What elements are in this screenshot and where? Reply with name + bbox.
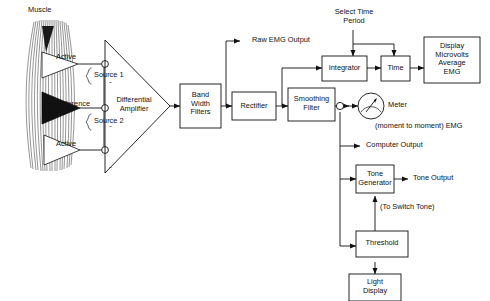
tone-generator-label: Tone Generator [356, 170, 394, 187]
to-switch-tone-label: (To Switch Tone) [380, 203, 435, 212]
computer-output-label: Computer Output [366, 141, 423, 150]
muscle-label: Muscle [28, 6, 51, 15]
diagram-svg [0, 0, 490, 301]
threshold-label: Threshold [356, 239, 408, 248]
amp-input-sign-1: - [109, 78, 112, 87]
meter-sub-label: (moment to moment) EMG [375, 122, 462, 131]
electrode-label-active-bottom: Active [56, 140, 76, 149]
time-label: Time [381, 64, 410, 73]
smoothing-filter-label: Smoothing Filter [288, 95, 335, 112]
band-width-filters-label: Band Width Filters [180, 91, 221, 117]
electrode-label-active-top: Active [56, 53, 76, 62]
amp-input-sign-2: - [109, 122, 112, 131]
select-time-period-label: Select Time Period [323, 8, 385, 25]
tone-output-label: Tone Output [413, 174, 453, 183]
differential-amplifier-label: Differential Amplifier [104, 96, 164, 113]
light-display-label: Light Display [349, 278, 401, 295]
electrode-label-reference: Reference [56, 100, 90, 109]
meter-label: Meter [388, 101, 407, 110]
signal-junction-node [336, 102, 343, 109]
rectifier-label: Rectifier [232, 102, 276, 111]
display-label: Display Microvolts Average EMG [424, 42, 480, 76]
integrator-label: Integrator [322, 64, 367, 73]
amp-input-sign-3: - [109, 163, 112, 172]
diagram-canvas: Muscle Active Reference Active Source 1 … [0, 0, 490, 301]
meter-gauge [358, 93, 384, 119]
raw-emg-output-label: Raw EMG Output [252, 36, 310, 45]
